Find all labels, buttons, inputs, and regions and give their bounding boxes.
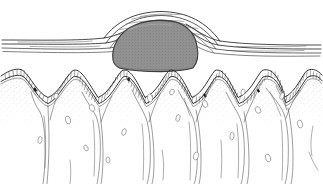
stromal-oval-cell	[230, 132, 235, 140]
histology-figure: Nodular mass beneath stratified membrane…	[0, 0, 323, 184]
illustration-canvas	[0, 0, 323, 184]
